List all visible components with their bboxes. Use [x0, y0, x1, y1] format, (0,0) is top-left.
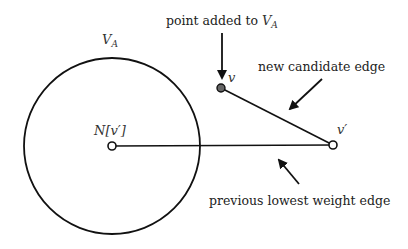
- node-n-vprime: [108, 142, 116, 150]
- node-vprime: [329, 141, 337, 149]
- previous-lowest-weight-edge: [112, 145, 333, 146]
- point-added-annotation: point added to VA: [166, 13, 278, 30]
- new-candidate-edge-arrow: [290, 79, 322, 109]
- node-v-label: v: [228, 70, 236, 85]
- set-va-label: VA: [102, 32, 118, 49]
- node-v: [217, 84, 225, 92]
- diagram-canvas: VA N[v′] v v′ point added to VA new cand…: [0, 0, 408, 249]
- new-candidate-edge: [221, 88, 333, 145]
- new-candidate-edge-annotation: new candidate edge: [258, 59, 385, 74]
- previous-lowest-weight-edge-arrow: [279, 160, 299, 184]
- node-n-vprime-label: N[v′]: [93, 123, 127, 138]
- node-vprime-label: v′: [337, 122, 347, 137]
- previous-lowest-weight-edge-annotation: previous lowest weight edge: [209, 193, 390, 208]
